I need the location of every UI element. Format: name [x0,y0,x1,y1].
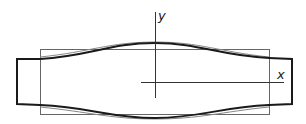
diagram-drawing [0,0,306,124]
y-axis-label: y [158,9,166,22]
x-axis-label: x [277,68,285,81]
diagram-canvas: y x [0,0,306,124]
